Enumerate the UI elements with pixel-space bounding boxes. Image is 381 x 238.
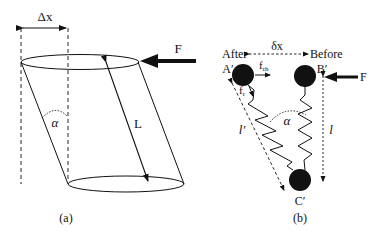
force-label: F	[174, 41, 181, 56]
node-c-ball	[289, 169, 311, 191]
caption-b: (b)	[293, 211, 307, 225]
cylinder-right-side	[138, 62, 184, 184]
length-before-label: l	[329, 122, 333, 137]
angle-alpha-label: α	[52, 115, 60, 130]
node-a-ball	[232, 64, 254, 86]
cylinder-bottom-ellipse	[68, 176, 184, 192]
node-a-label: A′	[222, 62, 234, 76]
node-b-ball	[294, 65, 316, 87]
node-c-label: C′	[295, 194, 306, 208]
caption-a: (a)	[59, 211, 72, 225]
displacement-label: δx	[271, 39, 283, 53]
force-label-b: F	[360, 70, 367, 84]
before-label: Before	[310, 47, 343, 61]
figure: Δx α L F (a) After Before δx l′ l	[0, 0, 381, 238]
cylinder-top-ellipse	[21, 55, 139, 70]
force-rh-label: frh	[259, 59, 269, 73]
delta-x-label: Δx	[38, 9, 53, 24]
length-l-label: L	[134, 116, 142, 131]
length-after-label: l′	[239, 122, 246, 137]
force-r-label: fr	[239, 84, 246, 98]
force-arrow-head	[140, 54, 158, 68]
panel-b: After Before δx l′ l α A′ B′ C′ frh fr	[222, 39, 367, 225]
cylinder-left-side	[21, 62, 68, 184]
after-label: After	[222, 47, 247, 61]
node-b-label: B′	[317, 62, 328, 76]
angle-alpha-label-b: α	[284, 113, 292, 128]
spring-b-c	[298, 86, 312, 170]
panel-a: Δx α L F (a)	[21, 9, 196, 225]
